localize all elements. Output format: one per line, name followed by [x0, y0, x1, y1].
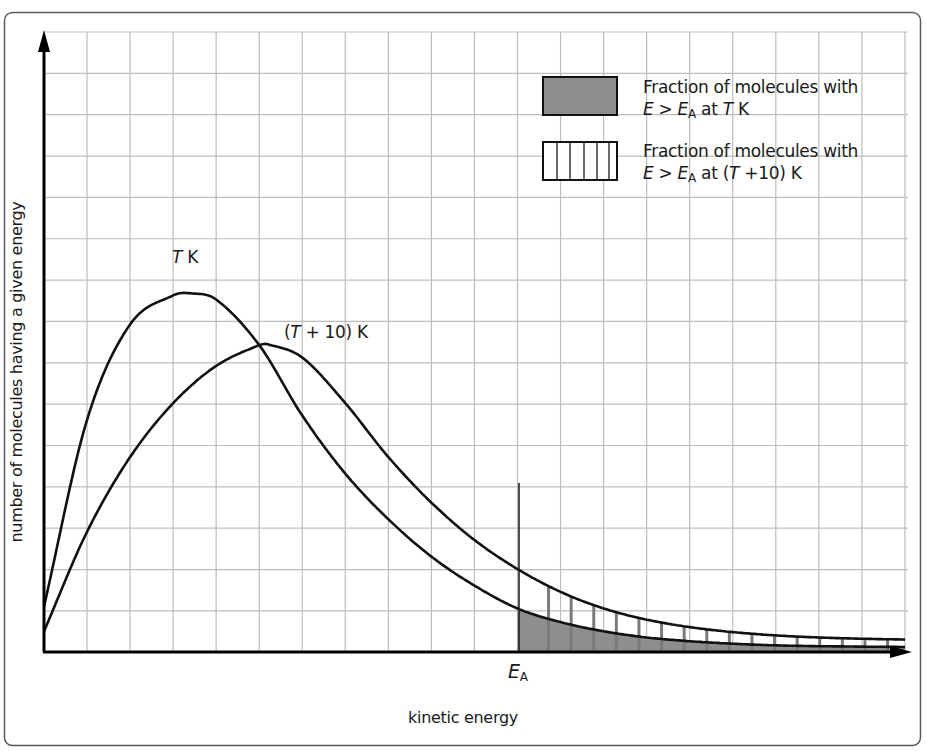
legend-k: K: [733, 99, 749, 119]
legend-at: at: [696, 99, 723, 119]
legend-entry-t-plus-10: Fraction of molecules with E > EA at (T …: [643, 140, 858, 189]
curve-label-t-rest: K: [182, 247, 198, 267]
legend2-gt: >: [653, 163, 677, 183]
curve-label-t: T K: [172, 247, 198, 267]
curve-label-t10-rest: + 10) K: [300, 322, 367, 342]
legend-ea-e: E: [678, 99, 688, 119]
legend-swatch-hatched: [543, 142, 617, 180]
legend-ea-sub: A: [688, 107, 696, 121]
ea-subscript: A: [520, 670, 528, 684]
activation-energy-marker-label: EA: [508, 660, 528, 684]
legend-t: T: [723, 99, 733, 119]
y-axis-label: number of molecules having a given energ…: [7, 201, 26, 542]
legend-entry-t: Fraction of molecules with E > EA at T K: [643, 76, 858, 125]
x-axis-label: kinetic energy: [0, 708, 926, 727]
legend2-ea-sub: A: [688, 171, 696, 185]
legend-e: E: [643, 99, 653, 119]
legend-gt: >: [653, 99, 677, 119]
legend-entry-t10-line1: Fraction of molecules with: [643, 140, 858, 162]
curve-label-t10-italic: T: [290, 322, 300, 342]
legend-entry-t-line2: E > EA at T K: [643, 98, 858, 125]
legend-entry-t10-line2: E > EA at (T +10) K: [643, 162, 858, 189]
legend2-e: E: [643, 163, 653, 183]
legend2-k: +10) K: [739, 163, 801, 183]
legend2-ea-e: E: [678, 163, 688, 183]
legend2-t: T: [729, 163, 739, 183]
legend-entry-t-line1: Fraction of molecules with: [643, 76, 858, 98]
legend-swatch-solid: [543, 77, 617, 115]
ea-italic: E: [508, 660, 520, 682]
legend2-at: at (: [696, 163, 729, 183]
curve-label-t-plus-10: (T + 10) K: [284, 322, 368, 342]
curve-label-t-italic: T: [172, 247, 182, 267]
